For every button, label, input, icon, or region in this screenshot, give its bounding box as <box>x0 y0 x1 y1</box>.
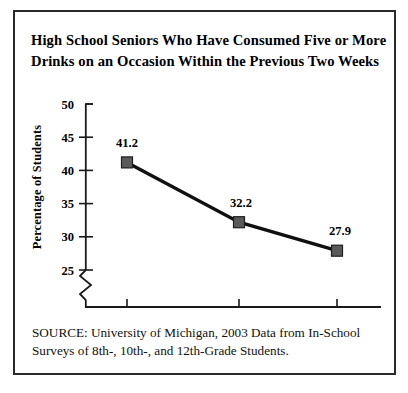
data-point-marker-1980 <box>122 157 133 168</box>
x-tick-label-1980: 1980 <box>115 314 140 315</box>
figure-frame: High School Seniors Who Have Consumed Fi… <box>13 10 396 375</box>
title-line-2: Drinks on an Occasion Within the Previou… <box>31 51 383 72</box>
y-axis-break-zigzag <box>80 270 91 307</box>
x-tick-label-1990: 1990 <box>227 314 252 315</box>
x-axis-ticks <box>127 299 337 307</box>
data-point-marker-1990 <box>234 217 245 228</box>
data-value-label-1980: 41.2 <box>116 136 138 150</box>
page-title: High School Seniors Who Have Consumed Fi… <box>31 30 383 71</box>
title-line-1: High School Seniors Who Have Consumed Fi… <box>31 30 383 51</box>
data-point-marker-2003 <box>332 245 343 256</box>
y-tick-label-35: 35 <box>62 197 75 211</box>
source-note: SOURCE: University of Michigan, 2003 Dat… <box>32 324 382 360</box>
x-tick-label-2003: 2003 <box>325 314 350 315</box>
y-tick-label-40: 40 <box>62 164 75 178</box>
y-tick-label-30: 30 <box>62 230 75 244</box>
y-tick-label-50: 50 <box>62 98 75 112</box>
line-chart-svg: 50 45 40 35 30 25 Percentage of Students… <box>15 80 394 315</box>
chart-plot-area: 50 45 40 35 30 25 Percentage of Students… <box>15 80 394 315</box>
data-value-label-2003: 27.9 <box>329 224 351 238</box>
y-axis-title: Percentage of Students <box>30 125 44 249</box>
y-tick-label-45: 45 <box>62 131 75 145</box>
data-value-label-1990: 32.2 <box>230 196 252 210</box>
y-tick-label-25: 25 <box>62 264 75 278</box>
